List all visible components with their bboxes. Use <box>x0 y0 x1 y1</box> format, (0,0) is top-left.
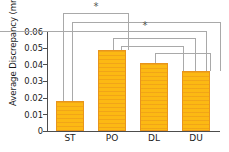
y-tick-label-0.06: 0.06 <box>10 27 43 37</box>
bar-PO <box>98 50 126 131</box>
y-tick-label-0.03: 0.03 <box>10 76 43 86</box>
bar-chart-figure: Average Discrepancy (mm) 0.06 0.05 0.04 … <box>0 0 229 152</box>
sig-bracket-3-right-arm <box>206 31 207 71</box>
sig-bracket-3-top <box>0 31 206 32</box>
y-axis-title: Average Discrepancy (mm) <box>8 0 18 106</box>
sig-bracket-5-right-arm <box>183 46 184 71</box>
bar-DU <box>182 71 210 131</box>
sig-bracket-6-top <box>155 53 210 54</box>
sig-asterisk-2: * <box>134 21 156 31</box>
sig-bracket-2-left-arm <box>72 22 73 101</box>
x-tick-label-DU: DU <box>182 133 210 143</box>
x-tick-label-ST: ST <box>56 133 84 143</box>
y-tick-label-0.05: 0.05 <box>10 43 43 53</box>
sig-bracket-5-top <box>121 46 183 47</box>
sig-bracket-6-right-arm <box>210 53 211 71</box>
sig-bracket-4-right-arm <box>195 38 196 71</box>
y-axis-line <box>47 31 48 131</box>
bar-DL <box>140 63 168 131</box>
x-tick-label-PO: PO <box>98 133 126 143</box>
sig-bracket-1-left-arm <box>63 13 64 101</box>
sig-bracket-1-top <box>63 13 128 14</box>
y-tick-label-0.04: 0.04 <box>10 60 43 70</box>
sig-bracket-4-top <box>113 38 195 39</box>
x-tick-label-DL: DL <box>140 133 168 143</box>
y-tick-label-0.02: 0.02 <box>10 93 43 103</box>
sig-bracket-2-right-arm <box>220 22 221 71</box>
x-axis-line <box>47 131 220 132</box>
sig-bracket-4-left-arm <box>113 38 114 50</box>
y-tick-label-0.01: 0.01 <box>10 110 43 120</box>
y-tick-label-0: 0 <box>10 126 43 136</box>
sig-bracket-6-left-arm <box>155 53 156 63</box>
sig-asterisk-1: * <box>85 2 107 12</box>
bar-ST <box>56 101 84 131</box>
